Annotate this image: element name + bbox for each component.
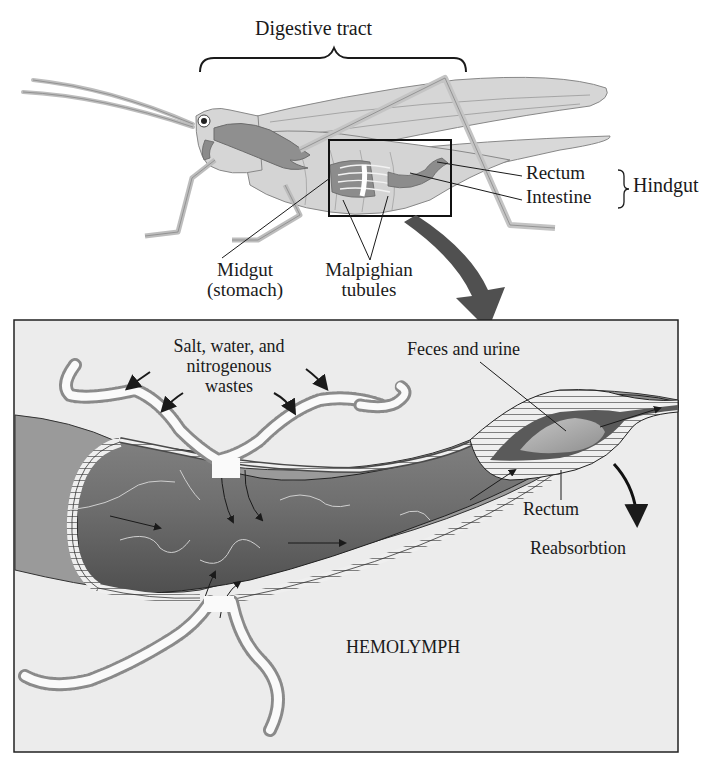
digestive-tract-label: Digestive tract (255, 18, 372, 39)
reabsorption-label: Reabsorbtion (530, 539, 626, 558)
salt-water-wastes-label: Salt, water, and nitrogenous wastes (146, 336, 312, 396)
malpighian-label-line1: Malpighian (304, 260, 434, 280)
detail-panel (14, 320, 678, 752)
salt-label-line2: nitrogenous (146, 356, 312, 376)
intestine-label: Intestine (526, 187, 591, 207)
hindgut-brace (618, 170, 629, 208)
rectum-label: Rectum (526, 163, 585, 183)
rectum-detail-label: Rectum (523, 500, 579, 519)
antenna-icon (23, 92, 193, 127)
digestive-tract-brace (200, 48, 466, 72)
midgut-label-line1: Midgut (190, 260, 300, 280)
malpighian-label-line2: tubules (304, 280, 434, 300)
hemolymph-label: HEMOLYMPH (346, 638, 460, 657)
salt-label-line1: Salt, water, and (146, 336, 312, 356)
feces-urine-label: Feces and urine (407, 340, 520, 359)
midgut-label: Midgut (stomach) (190, 260, 300, 300)
hindgut-label: Hindgut (633, 175, 699, 196)
midgut-label-line2: (stomach) (190, 280, 300, 300)
malpighian-tubules-label: Malpighian tubules (304, 260, 434, 300)
salt-label-line3: wastes (146, 376, 312, 396)
